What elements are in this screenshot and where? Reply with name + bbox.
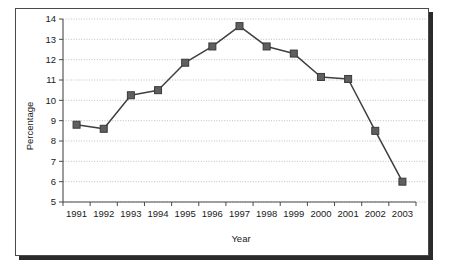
x-tick-label-1998: 1998 [256, 208, 277, 219]
y-tick-label-5: 5 [51, 196, 56, 207]
y-tick-label-14: 14 [45, 13, 56, 24]
x-tick-label-2003: 2003 [392, 208, 413, 219]
data-point-1998 [263, 43, 270, 50]
data-point-2003 [399, 178, 406, 185]
x-tick-label-1994: 1994 [147, 208, 168, 219]
x-tick-label-1995: 1995 [175, 208, 196, 219]
data-point-1999 [290, 50, 297, 57]
x-tick-label-2001: 2001 [338, 208, 359, 219]
y-tick-label-11: 11 [46, 74, 56, 85]
x-tick-marks-group [63, 202, 416, 206]
y-tick-label-12: 12 [45, 54, 56, 65]
data-point-2001 [345, 75, 352, 82]
x-tick-label-2000: 2000 [310, 208, 331, 219]
data-point-1994 [155, 87, 162, 94]
x-tick-label-1996: 1996 [202, 208, 223, 219]
y-tick-labels-group: 567891011121314 [45, 13, 56, 207]
x-tick-label-1992: 1992 [93, 208, 114, 219]
x-tick-label-1999: 1999 [283, 208, 304, 219]
x-tick-label-1997: 1997 [229, 208, 250, 219]
line-chart-svg: Percentage 567891011121314 1991199219931… [16, 9, 428, 255]
y-tick-label-7: 7 [51, 156, 56, 167]
plot-area-wrapper: Percentage 567891011121314 1991199219931… [16, 9, 428, 255]
y-tick-marks-group [59, 19, 63, 202]
data-point-1991 [73, 121, 80, 128]
x-tick-label-2002: 2002 [365, 208, 386, 219]
y-tick-label-10: 10 [45, 95, 56, 106]
data-point-1996 [209, 43, 216, 50]
chart-panel-frame: Percentage 567891011121314 1991199219931… [15, 8, 429, 256]
x-axis-title: Year [231, 233, 250, 244]
y-axis-title: Percentage [24, 102, 35, 151]
y-tick-label-6: 6 [51, 176, 56, 187]
gridlines-group [63, 19, 426, 202]
data-point-2000 [317, 73, 324, 80]
y-tick-label-13: 13 [45, 34, 56, 45]
x-tick-labels-group: 1991199219931994199519961997199819992000… [66, 208, 413, 219]
chart-figure: Percentage 567891011121314 1991199219931… [0, 0, 454, 278]
data-point-1993 [127, 92, 134, 99]
data-point-1997 [236, 23, 243, 30]
x-tick-label-1991: 1991 [66, 208, 87, 219]
x-tick-label-1993: 1993 [120, 208, 141, 219]
y-tick-label-8: 8 [51, 135, 56, 146]
data-point-1995 [182, 59, 189, 66]
data-point-1992 [100, 125, 107, 132]
series-line-percentage [77, 26, 403, 182]
y-tick-label-9: 9 [51, 115, 56, 126]
data-point-2002 [372, 127, 379, 134]
